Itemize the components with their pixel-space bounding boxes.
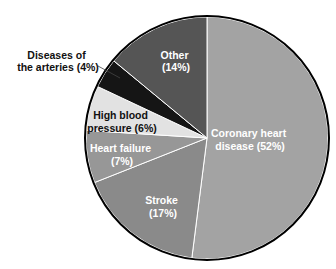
label-coronary: Coronary heart disease (52%): [211, 127, 289, 152]
label-arteries: Diseases of the arteries (4%): [17, 49, 99, 73]
label-high-blood-pressure: High blood pressure (6%): [87, 109, 156, 134]
label-stroke: Stroke (17%): [145, 194, 181, 219]
label-other: Other (14%): [161, 49, 192, 73]
pie-chart: Coronary heart disease (52%) Stroke (17%…: [0, 0, 336, 269]
